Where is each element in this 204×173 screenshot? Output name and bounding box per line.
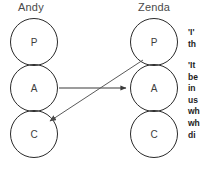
diagram-canvas: Andy Zenda P A C P A C 'I' th 'It be in …: [0, 0, 204, 173]
arrow-layer: [0, 0, 204, 173]
arrow-response-parent-to-child: [50, 60, 143, 121]
side-note-first: 'I' th: [188, 27, 204, 50]
side-note-second: 'It be in us wh wh di: [188, 60, 204, 141]
